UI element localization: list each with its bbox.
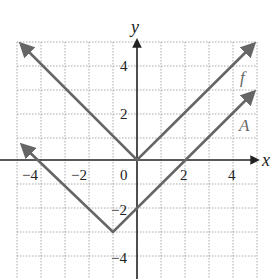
series-a-line bbox=[22, 92, 254, 232]
x-axis-label: x bbox=[261, 150, 270, 170]
x-tick-4: 4 bbox=[228, 167, 236, 183]
y-tick-neg4: −4 bbox=[111, 250, 127, 266]
series-a-label: A bbox=[238, 116, 250, 135]
y-tick-2: 2 bbox=[120, 106, 128, 122]
x-tick-0: 0 bbox=[120, 167, 128, 183]
y-tick-neg2: −2 bbox=[111, 202, 127, 218]
graph: y x f A −4 −2 0 2 4 4 2 −2 −4 bbox=[0, 0, 276, 279]
y-axis-label: y bbox=[129, 17, 139, 37]
y-tick-4: 4 bbox=[120, 58, 128, 74]
x-tick-neg2: −2 bbox=[71, 167, 87, 183]
x-tick-2: 2 bbox=[180, 167, 188, 183]
series-f-label: f bbox=[240, 68, 247, 87]
x-tick-neg4: −4 bbox=[22, 167, 38, 183]
